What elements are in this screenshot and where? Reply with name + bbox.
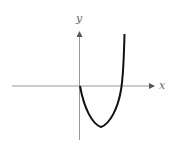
curve [80, 34, 125, 127]
y-axis-label: y [76, 12, 82, 25]
x-axis-label: x [159, 79, 165, 92]
graph [0, 0, 174, 145]
